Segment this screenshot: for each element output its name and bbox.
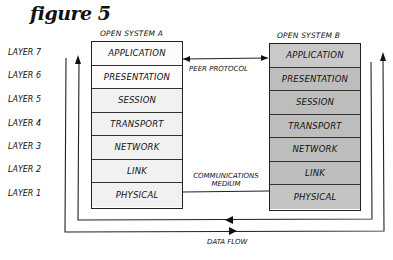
layer-application-b: APPLICATION [270,44,360,68]
arrow-up-icon [75,55,81,64]
layer-transport-b: TRANSPORT [270,115,360,139]
layer-physical-a: PHYSICAL [92,183,182,207]
arrow-up-icon [380,52,386,61]
layer-session-a: SESSION [92,89,182,113]
layer-application-a: APPLICATION [92,42,182,66]
layer-session-b: SESSION [270,91,360,115]
arrow-left-icon [183,56,190,62]
layer-link-b: LINK [270,162,360,186]
data-flow-label: DATA FLOW [207,238,247,246]
arrow-right-icon [261,55,268,61]
layer-presentation-a: PRESENTATION [92,66,182,90]
peer-protocol-label: PEER PROTOCOL [189,65,248,73]
layer-physical-b: PHYSICAL [270,185,360,209]
open-system-a-stack: APPLICATION PRESENTATION SESSION TRANSPO… [91,41,183,209]
layer-network-b: NETWORK [270,138,360,162]
arrow-right-icon [229,227,237,235]
arrow-left-icon [225,216,233,224]
layer-presentation-b: PRESENTATION [270,68,360,92]
open-system-b-stack: APPLICATION PRESENTATION SESSION TRANSPO… [269,43,361,211]
communications-label-line1: COMMUNICATIONS [184,172,268,180]
layer-transport-a: TRANSPORT [92,113,182,137]
layer-network-a: NETWORK [92,136,182,160]
communications-label-line2: MEDIUM [184,180,268,188]
communications-medium-label: COMMUNICATIONS MEDIUM [184,172,268,188]
layer-link-a: LINK [92,160,182,184]
